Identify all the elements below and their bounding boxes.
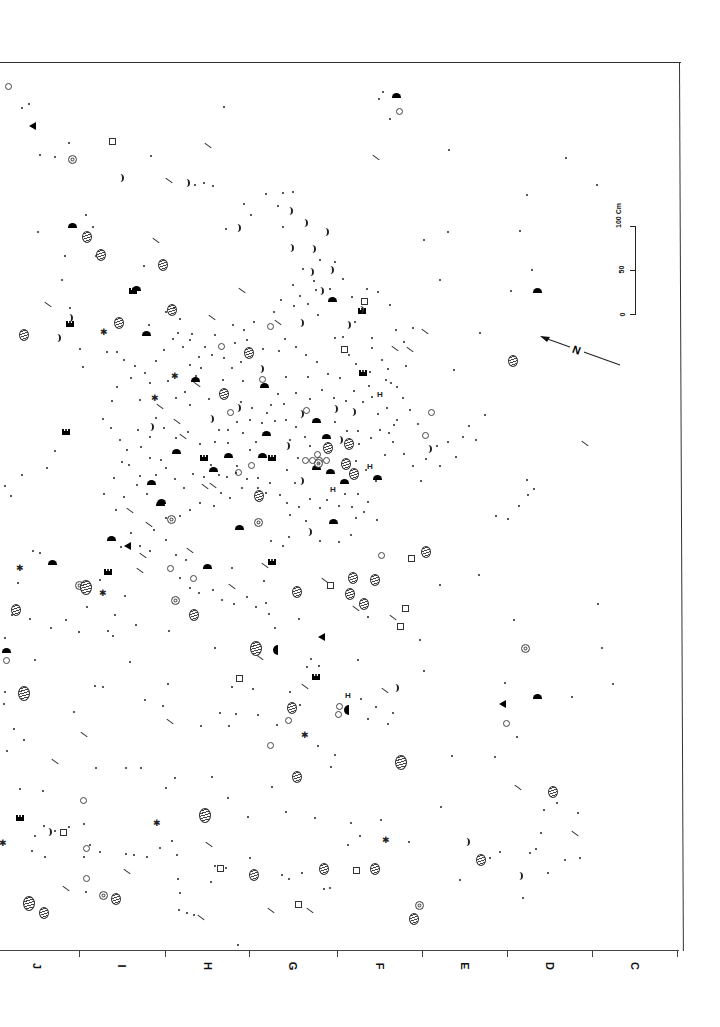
dot-symbol [310, 658, 312, 660]
dot-symbol [362, 401, 364, 403]
dot-symbol [309, 498, 311, 500]
dot-symbol [387, 368, 389, 370]
half-disc-symbol [2, 648, 11, 653]
dot-symbol [366, 288, 368, 290]
dot-symbol [130, 377, 132, 379]
half-disc-vertical-symbol [344, 705, 349, 715]
dot-symbol [479, 332, 481, 334]
crescent-symbol [516, 872, 523, 880]
dot-symbol [283, 403, 285, 405]
dot-symbol [235, 472, 237, 474]
ring-symbol [248, 462, 255, 469]
half-disc-symbol [533, 288, 542, 293]
dot-symbol [359, 835, 361, 837]
dot-symbol [299, 295, 301, 297]
dot-symbol [92, 226, 94, 228]
dash-symbol [139, 553, 146, 558]
half-disc-symbol [258, 453, 267, 458]
dot-symbol [42, 790, 44, 792]
dot-symbol [165, 539, 167, 541]
dash-symbol [372, 155, 379, 160]
dot-symbol [251, 407, 253, 409]
dot-symbol [240, 401, 242, 403]
dot-symbol [355, 517, 357, 519]
dot-symbol [289, 691, 291, 693]
dot-symbol [601, 647, 603, 649]
hatched-oval-symbol [319, 863, 329, 875]
dot-symbol [350, 822, 352, 824]
dot-symbol [577, 812, 579, 814]
dot-symbol [265, 602, 267, 604]
dash-symbol [62, 886, 69, 891]
hatched-oval-symbol [189, 609, 199, 621]
dot-symbol [163, 349, 165, 351]
dot-symbol [305, 354, 307, 356]
hatched-oval-symbol [111, 893, 121, 905]
crescent-symbol [257, 365, 264, 373]
dot-symbol [173, 307, 175, 309]
hatched-oval-large-symbol [23, 896, 35, 911]
dot-symbol [387, 723, 389, 725]
dot-symbol [189, 509, 191, 511]
dot-symbol [547, 872, 549, 874]
dot-symbol [243, 329, 245, 331]
dash-symbol [352, 606, 359, 611]
crescent-symbol [297, 410, 304, 418]
triangle-symbol [29, 122, 36, 130]
dot-symbol [182, 346, 184, 348]
dot-symbol [185, 559, 187, 561]
dot-symbol [402, 397, 404, 399]
dot-symbol [191, 333, 193, 335]
grid-tick [249, 950, 250, 957]
dot-symbol [172, 338, 174, 340]
spiral-symbol [415, 901, 424, 910]
triangle-symbol [124, 542, 131, 550]
grid-tick [592, 950, 593, 957]
dot-symbol [199, 443, 201, 445]
dot-symbol [61, 279, 63, 281]
dot-symbol [288, 536, 290, 538]
dot-symbol [11, 614, 13, 616]
dot-symbol [495, 515, 497, 517]
spiral-symbol [254, 518, 263, 527]
dot-symbol [79, 348, 81, 350]
dot-symbol [102, 686, 104, 688]
dot-symbol [223, 106, 225, 108]
ring-symbol [378, 552, 385, 559]
square-symbol [60, 829, 67, 836]
crown-symbol [16, 815, 24, 821]
dot-symbol [176, 854, 178, 856]
dash-symbol [204, 143, 211, 148]
excavation-plan: J I H G F E D C 0 50 100 Cm N ✱✱✱✱✱✱✱✱✱H… [0, 0, 720, 1027]
dot-symbol [329, 288, 331, 290]
dot-symbol [436, 445, 438, 447]
dot-symbol [339, 377, 341, 379]
dot-symbol [468, 425, 470, 427]
dot-symbol [221, 599, 223, 601]
dot-symbol [261, 422, 263, 424]
dot-symbol [330, 766, 332, 768]
dot-symbol [54, 830, 56, 832]
crescent-symbol [54, 334, 61, 342]
dot-symbol [315, 289, 317, 291]
hatched-oval-symbol [158, 259, 168, 271]
dot-symbol [29, 618, 31, 620]
dot-symbol [368, 385, 370, 387]
dot-symbol [298, 618, 300, 620]
dot-symbol [146, 493, 148, 495]
dot-symbol [69, 307, 71, 309]
hatched-oval-symbol [349, 468, 359, 480]
ring-symbol [218, 343, 225, 350]
dot-symbol [255, 606, 257, 608]
dot-symbol [333, 397, 335, 399]
hatched-oval-symbol [344, 438, 354, 450]
dot-symbol [102, 418, 104, 420]
dot-symbol [174, 478, 176, 480]
dot-symbol [34, 835, 36, 837]
dash-symbol [152, 238, 159, 243]
half-disc-symbol [157, 499, 166, 504]
dot-symbol [360, 698, 362, 700]
dot-symbol [246, 478, 248, 480]
dot-symbol [39, 154, 41, 156]
dot-symbol [232, 324, 234, 326]
